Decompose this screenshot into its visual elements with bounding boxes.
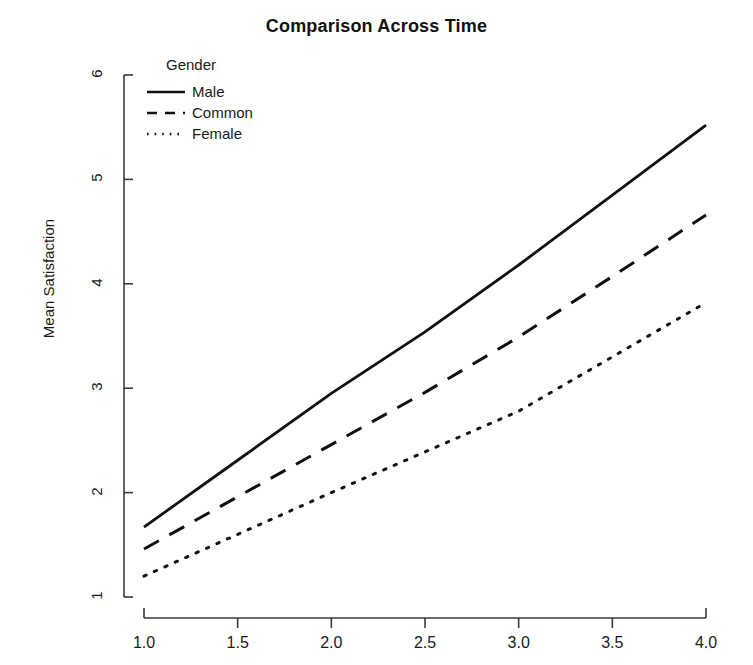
y-tick-label: 1 <box>88 576 105 616</box>
x-tick-label: 3.5 <box>582 634 642 652</box>
x-tick-label: 4.0 <box>676 634 736 652</box>
legend-label-male: Male <box>192 83 225 100</box>
x-tick-label: 1.0 <box>114 634 174 652</box>
legend-key-male <box>146 85 186 99</box>
series-line-common <box>144 215 706 549</box>
chart-container: Comparison Across Time Mean Satisfaction… <box>0 0 753 665</box>
legend-key-female <box>146 127 186 141</box>
y-tick-label: 4 <box>88 262 105 302</box>
y-tick-label: 5 <box>88 158 105 198</box>
legend-item: Male <box>146 81 326 102</box>
data-series <box>144 125 706 576</box>
legend-label-female: Female <box>192 125 242 142</box>
series-line-female <box>144 303 706 577</box>
y-tick-label: 6 <box>88 54 105 94</box>
x-tick-label: 2.0 <box>301 634 361 652</box>
series-line-male <box>144 125 706 527</box>
legend-item: Female <box>146 123 326 144</box>
legend-title: Gender <box>166 56 326 73</box>
legend-label-common: Common <box>192 104 253 121</box>
x-tick-label: 1.5 <box>208 634 268 652</box>
y-tick-label: 3 <box>88 367 105 407</box>
plot-area <box>0 0 753 665</box>
x-tick-label: 2.5 <box>395 634 455 652</box>
legend-key-common <box>146 106 186 120</box>
y-tick-label: 2 <box>88 471 105 511</box>
legend: Gender Male Common Female <box>146 56 326 144</box>
legend-item: Common <box>146 102 326 123</box>
x-tick-label: 3.0 <box>489 634 549 652</box>
